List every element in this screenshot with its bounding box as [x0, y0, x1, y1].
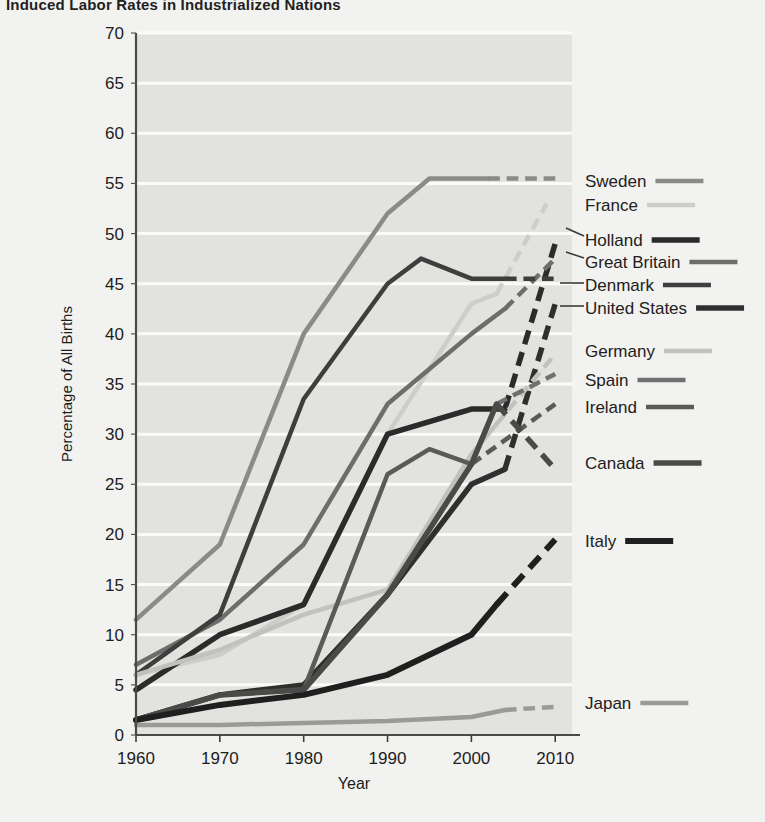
x-axis-title: Year	[338, 775, 371, 792]
x-tick-label: 1980	[285, 749, 323, 768]
chart-legend: SwedenFranceHollandGreat BritainDenmarkU…	[560, 172, 744, 713]
legend-label: Holland	[585, 231, 643, 250]
y-tick-label: 25	[105, 475, 124, 494]
legend-label: Denmark	[585, 276, 654, 295]
legend-label: Canada	[585, 454, 645, 473]
legend-item-holland[interactable]: Holland	[585, 231, 700, 250]
y-tick-label: 20	[105, 525, 124, 544]
chart-canvas: 0510152025303540455055606570196019701980…	[0, 0, 765, 822]
x-tick-label: 2000	[452, 749, 490, 768]
legend-item-canada[interactable]: Canada	[585, 454, 702, 473]
y-tick-label: 30	[105, 425, 124, 444]
legend-item-united-states[interactable]: United States	[585, 299, 744, 318]
legend-item-sweden[interactable]: Sweden	[585, 172, 703, 191]
legend-label: Spain	[585, 371, 628, 390]
legend-label: Italy	[585, 532, 617, 551]
legend-item-ireland[interactable]: Ireland	[585, 398, 694, 417]
y-tick-label: 0	[115, 726, 124, 745]
x-tick-label: 1960	[117, 749, 155, 768]
y-tick-label: 35	[105, 375, 124, 394]
legend-item-great-britain[interactable]: Great Britain	[585, 253, 737, 272]
x-tick-label: 1990	[369, 749, 407, 768]
x-tick-label: 2010	[536, 749, 574, 768]
legend-label: Japan	[585, 694, 631, 713]
legend-label: Ireland	[585, 398, 637, 417]
y-tick-label: 40	[105, 325, 124, 344]
y-tick-label: 15	[105, 576, 124, 595]
y-axis-title: Percentage of All Births	[58, 306, 75, 462]
y-tick-label: 55	[105, 174, 124, 193]
y-tick-label: 10	[105, 626, 124, 645]
legend-label: Sweden	[585, 172, 646, 191]
y-tick-label: 60	[105, 124, 124, 143]
y-tick-label: 50	[105, 225, 124, 244]
y-tick-label: 70	[105, 24, 124, 43]
legend-label: France	[585, 196, 638, 215]
legend-item-japan[interactable]: Japan	[585, 694, 688, 713]
legend-item-spain[interactable]: Spain	[585, 371, 685, 390]
legend-item-denmark[interactable]: Denmark	[585, 276, 711, 295]
y-tick-label: 45	[105, 275, 124, 294]
series-projection-japan	[505, 707, 555, 710]
legend-label: Great Britain	[585, 253, 680, 272]
chart-title: Induced Labor Rates in Industrialized Na…	[6, 0, 426, 16]
y-tick-label: 65	[105, 74, 124, 93]
legend-item-germany[interactable]: Germany	[585, 342, 712, 361]
chart-figure: Induced Labor Rates in Industrialized Na…	[0, 0, 765, 822]
x-tick-label: 1970	[201, 749, 239, 768]
legend-item-italy[interactable]: Italy	[585, 532, 673, 551]
legend-label: United States	[585, 299, 687, 318]
legend-label: Germany	[585, 342, 655, 361]
legend-item-france[interactable]: France	[585, 196, 695, 215]
y-tick-label: 5	[115, 676, 124, 695]
